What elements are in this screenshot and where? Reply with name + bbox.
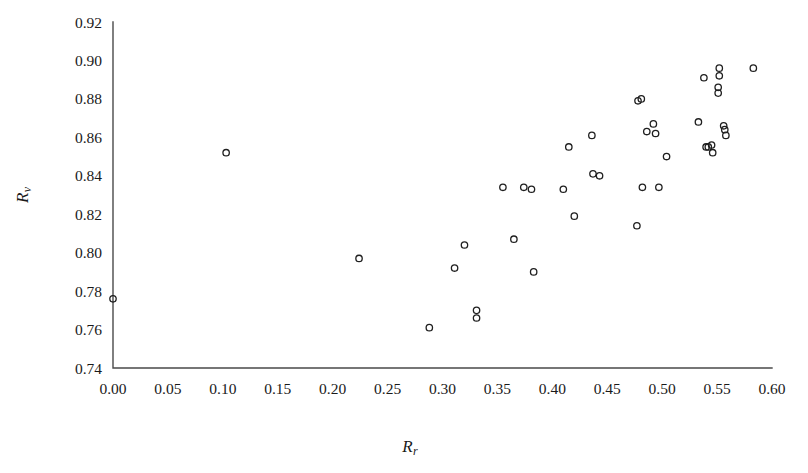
data-point xyxy=(500,184,506,190)
y-tick-label: 0.78 xyxy=(75,283,102,300)
data-point xyxy=(639,184,645,190)
data-point xyxy=(521,184,527,190)
data-point xyxy=(656,184,662,190)
y-tick-label: 0.82 xyxy=(75,206,102,223)
data-point xyxy=(652,130,658,136)
y-tick-label: 0.92 xyxy=(75,14,102,31)
x-axis-tick-labels: 0.000.050.100.150.200.250.300.350.400.45… xyxy=(99,380,785,397)
data-point xyxy=(426,324,432,330)
svg-text:Rv: Rv xyxy=(13,186,34,204)
plot-canvas: 0.740.760.780.800.820.840.860.880.900.92… xyxy=(0,0,808,473)
x-tick-label: 0.60 xyxy=(758,380,785,397)
y-tick-label: 0.74 xyxy=(75,360,102,377)
y-tick-label: 0.86 xyxy=(75,129,102,146)
data-point xyxy=(473,315,479,321)
y-axis-tick-labels: 0.740.760.780.800.820.840.860.880.900.92 xyxy=(75,14,102,377)
data-point xyxy=(461,242,467,248)
x-tick-label: 0.50 xyxy=(649,380,676,397)
data-point-series xyxy=(110,65,757,331)
data-point xyxy=(511,236,517,242)
x-tick-label: 0.05 xyxy=(154,380,181,397)
y-tick-label: 0.80 xyxy=(75,244,102,261)
x-tick-label: 0.00 xyxy=(99,380,126,397)
x-tick-label: 0.35 xyxy=(484,380,511,397)
x-tick-label: 0.10 xyxy=(209,380,236,397)
x-tick-label: 0.15 xyxy=(264,380,291,397)
data-point xyxy=(451,265,457,271)
data-point xyxy=(716,73,722,79)
data-point xyxy=(709,150,715,156)
x-tick-label: 0.45 xyxy=(594,380,621,397)
x-tick-label: 0.25 xyxy=(374,380,401,397)
data-point xyxy=(560,186,566,192)
data-point xyxy=(650,121,656,127)
axis-title-base: R xyxy=(13,192,32,204)
y-tick-label: 0.88 xyxy=(75,90,102,107)
axis-lines xyxy=(113,22,772,368)
data-point xyxy=(596,173,602,179)
data-point xyxy=(590,171,596,177)
axes xyxy=(113,22,772,368)
x-tick-label: 0.55 xyxy=(704,380,731,397)
data-point xyxy=(473,307,479,313)
y-tick-label: 0.76 xyxy=(75,321,102,338)
axis-title-base: R xyxy=(401,437,413,456)
x-tick-label: 0.20 xyxy=(319,380,346,397)
data-point xyxy=(589,132,595,138)
data-point xyxy=(571,213,577,219)
y-tick-label: 0.90 xyxy=(75,52,102,69)
x-tick-label: 0.30 xyxy=(429,380,456,397)
axis-title-subscript: v xyxy=(20,186,34,192)
x-tick-label: 0.40 xyxy=(539,380,566,397)
data-point xyxy=(223,150,229,156)
data-point xyxy=(530,269,536,275)
y-axis-title: Rv xyxy=(13,186,34,204)
data-point xyxy=(695,119,701,125)
data-point xyxy=(356,255,362,261)
svg-text:Rr: Rr xyxy=(401,437,418,458)
y-tick-label: 0.84 xyxy=(75,167,102,184)
axis-title-subscript: r xyxy=(413,444,418,458)
data-point xyxy=(634,223,640,229)
data-point xyxy=(701,75,707,81)
data-point xyxy=(528,186,534,192)
data-point xyxy=(750,65,756,71)
data-point xyxy=(566,144,572,150)
data-point xyxy=(716,65,722,71)
data-point xyxy=(663,153,669,159)
data-point xyxy=(644,128,650,134)
scatter-chart-figure: 0.740.760.780.800.820.840.860.880.900.92… xyxy=(0,0,808,473)
x-axis-title: Rr xyxy=(401,437,418,458)
